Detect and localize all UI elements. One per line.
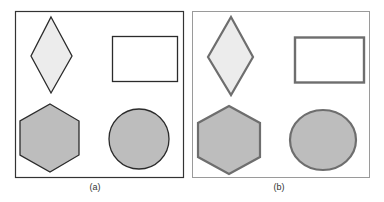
panel-b-rectangle [295, 38, 364, 83]
panel-b [193, 12, 370, 178]
panel-a [16, 12, 184, 178]
panel-b-ellipse [290, 110, 356, 170]
panel-a-caption: (a) [75, 182, 115, 192]
panel-a-circle [109, 109, 169, 169]
panel-a-rectangle [113, 37, 178, 82]
panel-b-caption: (b) [259, 182, 299, 192]
figure-canvas [0, 0, 384, 202]
